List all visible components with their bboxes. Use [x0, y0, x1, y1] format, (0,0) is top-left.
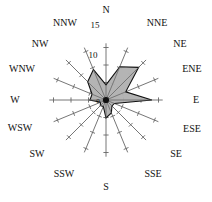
direction-label-ene: ENE [182, 63, 201, 74]
direction-label-nnw: NNW [53, 17, 77, 28]
direction-label-sw: SW [30, 148, 46, 159]
wind-rose-canvas: NNNENEENEEESESESSESSSWSWWSWWWNWNWNNW 15 … [0, 0, 212, 202]
direction-label-s: S [103, 181, 109, 192]
radial-tick-label-10: 10 [89, 50, 99, 60]
direction-label-ssw: SSW [54, 168, 75, 179]
direction-label-e: E [193, 94, 199, 105]
direction-label-sse: SSE [144, 168, 161, 179]
radial-tick-label-0: 0 [96, 97, 100, 105]
wind-rose-figure: NNNENEENEEESESESSESSSWSWWSWWWNWNWNNW 15 … [0, 0, 212, 202]
direction-label-nne: NNE [147, 17, 168, 28]
direction-label-ne: NE [173, 38, 186, 49]
direction-label-wsw: WSW [8, 122, 33, 133]
direction-label-se: SE [170, 148, 182, 159]
center-marker [103, 97, 109, 103]
direction-label-w: W [10, 94, 20, 105]
direction-label-n: N [102, 4, 109, 15]
direction-label-ese: ESE [183, 123, 201, 134]
direction-label-wnw: WNW [9, 63, 36, 74]
radial-tick-label-15: 15 [91, 20, 101, 30]
direction-label-nw: NW [32, 38, 49, 49]
